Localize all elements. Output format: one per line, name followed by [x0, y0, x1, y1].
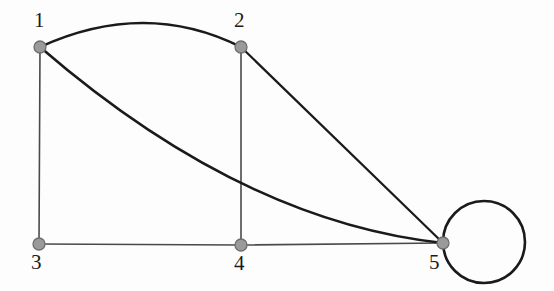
- straight-edge-group: [39, 47, 443, 245]
- graph-figure: 1 2 3 4 5: [0, 0, 554, 291]
- vertex-label-4: 4: [234, 253, 245, 274]
- vertex-label-2: 2: [234, 10, 245, 31]
- vertex-4[interactable]: [235, 239, 247, 251]
- edge-2-5: [241, 47, 443, 243]
- vertex-label-5: 5: [429, 252, 440, 273]
- self-loop-group: [443, 201, 525, 283]
- vertex-2[interactable]: [235, 41, 247, 53]
- vertex-1[interactable]: [34, 41, 46, 53]
- edge-5-5-self-loop: [443, 201, 525, 283]
- edge-3-4: [39, 244, 241, 245]
- vertex-label-3: 3: [31, 252, 42, 273]
- vertex-5[interactable]: [437, 237, 449, 249]
- graph-canvas: [0, 0, 554, 291]
- vertex-3[interactable]: [33, 238, 45, 250]
- vertex-label-1: 1: [34, 10, 45, 31]
- edge-1-2-arc: [40, 23, 241, 47]
- edge-4-5: [241, 243, 443, 245]
- edge-1-3: [39, 47, 40, 244]
